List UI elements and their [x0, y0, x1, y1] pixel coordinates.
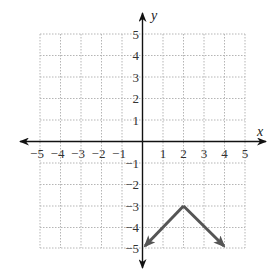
svg-text:2: 2: [180, 146, 187, 161]
x-tick-labels: −5 −4 −3 −2 −1 1 2 3 4 5: [30, 146, 248, 161]
svg-text:3: 3: [133, 70, 140, 85]
svg-text:−1: −1: [112, 146, 126, 161]
coordinate-plane: x y −5 −4 −3 −2 −1 1 2 3 4 5 5 4 3 2 1 −…: [0, 0, 274, 277]
svg-text:1: 1: [160, 146, 167, 161]
x-axis-label: x: [256, 124, 264, 139]
svg-text:−1: −1: [125, 156, 139, 171]
svg-text:2: 2: [133, 91, 140, 106]
svg-text:−3: −3: [71, 146, 85, 161]
left-ray: [145, 206, 184, 246]
svg-text:1: 1: [133, 113, 140, 128]
svg-text:−3: −3: [125, 199, 139, 214]
axes: [20, 13, 266, 268]
svg-text:3: 3: [201, 146, 208, 161]
y-axis-label: y: [149, 8, 158, 23]
svg-text:−2: −2: [125, 177, 139, 192]
svg-text:−5: −5: [30, 146, 44, 161]
svg-text:5: 5: [242, 146, 249, 161]
svg-text:5: 5: [133, 27, 140, 42]
svg-text:−5: −5: [125, 241, 139, 256]
svg-text:−2: −2: [92, 146, 106, 161]
svg-text:−4: −4: [125, 220, 139, 235]
absolute-value-graph: [145, 206, 224, 246]
svg-text:4: 4: [221, 146, 228, 161]
svg-text:−4: −4: [51, 146, 65, 161]
svg-text:4: 4: [133, 48, 140, 63]
